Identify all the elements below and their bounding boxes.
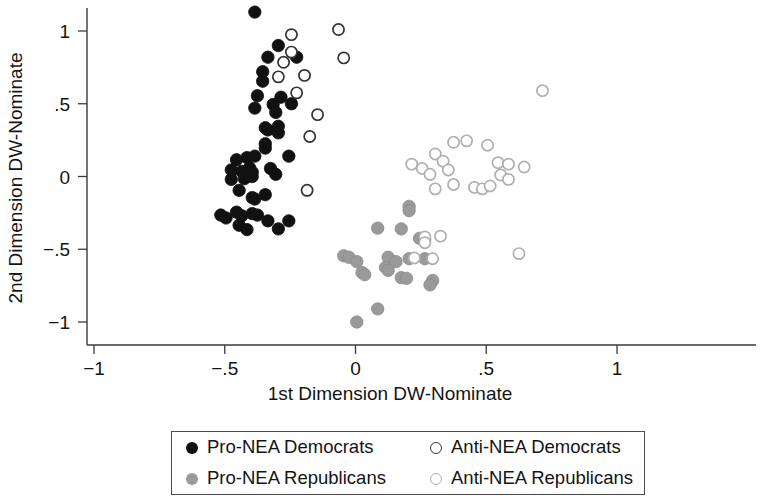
y-tick-label: −1 (48, 312, 70, 333)
data-point (461, 135, 472, 146)
data-point (272, 39, 284, 51)
data-point (283, 150, 295, 162)
data-point (291, 87, 302, 98)
x-axis-title: 1st Dimension DW-Nominate (268, 383, 513, 404)
data-point (409, 252, 420, 263)
data-points-layer (215, 6, 548, 328)
scatter-plot-canvas: −1−.50.51 −1−.50.51 1st Dimension DW-Nom… (0, 0, 765, 504)
data-point (262, 51, 274, 63)
data-point (225, 173, 237, 185)
data-point (338, 52, 349, 63)
series-anti-nea-republicans (406, 85, 548, 264)
x-tick-label: .5 (478, 358, 494, 379)
series-anti-nea-democrats (273, 24, 350, 196)
data-point (400, 272, 412, 284)
legend-label-anti-nea-democrats: Anti-NEA Democrats (451, 438, 621, 457)
data-point (270, 168, 282, 180)
data-point (513, 248, 524, 259)
data-point (249, 150, 261, 162)
y-tick-label: 0 (59, 167, 70, 188)
data-point (519, 161, 530, 172)
filled-dark-circle-icon (186, 442, 198, 454)
data-point (286, 29, 297, 40)
filled-gray-circle-icon (186, 473, 198, 485)
x-axis-ticks: −1−.50.51 (83, 345, 622, 379)
y-axis-title: 2nd Dimension DW-Nominate (5, 53, 26, 304)
y-tick-label: .5 (54, 94, 70, 115)
data-point (443, 164, 454, 175)
data-point (241, 223, 253, 235)
data-point (312, 109, 323, 120)
x-tick-label: 1 (612, 358, 623, 379)
data-point (427, 253, 438, 264)
open-dark-circle-icon (430, 442, 442, 454)
data-point (259, 188, 271, 200)
legend-label-pro-nea-republicans: Pro-NEA Republicans (207, 469, 386, 488)
data-point (358, 269, 370, 281)
legend-item-anti-nea-republicans: Anti-NEA Republicans (430, 469, 660, 488)
data-point (419, 237, 430, 248)
legend-label-pro-nea-democrats: Pro-NEA Democrats (207, 438, 374, 457)
legend-label-anti-nea-republicans: Anti-NEA Republicans (451, 469, 633, 488)
x-tick-label: 0 (350, 358, 361, 379)
data-point (270, 106, 282, 118)
data-point (233, 184, 245, 196)
data-point (272, 127, 284, 139)
data-point (424, 279, 436, 291)
data-point (424, 169, 435, 180)
legend-item-pro-nea-democrats: Pro-NEA Democrats (186, 438, 430, 457)
data-point (304, 131, 315, 142)
data-point (448, 137, 459, 148)
data-point (283, 215, 295, 227)
data-point (395, 223, 407, 235)
data-point (351, 255, 363, 267)
data-point (537, 85, 548, 96)
data-point (430, 183, 441, 194)
data-point (256, 75, 268, 87)
x-tick-label: −.5 (211, 358, 238, 379)
open-gray-circle-icon (430, 473, 442, 485)
data-point (249, 102, 261, 114)
legend-item-pro-nea-republicans: Pro-NEA Republicans (186, 469, 430, 488)
x-tick-label: −1 (83, 358, 105, 379)
data-point (302, 185, 313, 196)
data-point (503, 159, 514, 170)
data-point (403, 204, 415, 216)
data-point (249, 6, 261, 18)
data-point (372, 222, 384, 234)
y-tick-label: 1 (59, 21, 70, 42)
data-point (251, 90, 263, 102)
data-point (259, 142, 271, 154)
data-point (262, 215, 274, 227)
axes (87, 8, 756, 345)
data-point (351, 316, 363, 328)
data-point (246, 170, 258, 182)
legend-item-anti-nea-democrats: Anti-NEA Democrats (430, 438, 660, 457)
data-point (492, 157, 503, 168)
y-axis-ticks: −1−.50.51 (43, 21, 87, 333)
data-point (372, 303, 384, 315)
data-point (503, 174, 514, 185)
data-point (278, 57, 289, 68)
data-point (286, 47, 297, 58)
data-point (382, 264, 394, 276)
legend: Pro-NEA Democrats Anti-NEA Democrats Pro… (171, 431, 645, 495)
data-point (482, 140, 493, 151)
scatter-plot-figure: −1−.50.51 −1−.50.51 1st Dimension DW-Nom… (0, 0, 765, 504)
data-point (333, 24, 344, 35)
data-point (285, 98, 297, 110)
data-point (448, 179, 459, 190)
data-point (299, 70, 310, 81)
data-point (272, 223, 284, 235)
data-point (406, 159, 417, 170)
series-pro-nea-republicans (338, 200, 439, 328)
data-point (435, 231, 446, 242)
data-point (273, 71, 284, 82)
data-point (485, 180, 496, 191)
y-tick-label: −.5 (43, 239, 70, 260)
